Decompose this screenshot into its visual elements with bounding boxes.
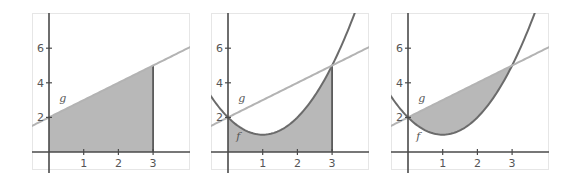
x-tick-label: 1 — [439, 157, 446, 170]
y-tick-label: 4 — [216, 77, 223, 90]
x-tick-label: 2 — [474, 157, 481, 170]
panel-area-between-f-g: 123246gf — [391, 13, 549, 170]
function-label-g: g — [418, 92, 425, 105]
x-tick-label: 3 — [329, 157, 336, 170]
chart-svg: 123246gf — [391, 13, 549, 170]
y-tick-label: 2 — [216, 111, 223, 124]
y-tick-label: 4 — [396, 77, 403, 90]
x-tick-label: 3 — [150, 157, 157, 170]
panel-area-under-f: 123246gf — [211, 13, 369, 170]
y-tick-label: 6 — [37, 42, 44, 55]
chart-svg: 123246g — [32, 13, 190, 170]
x-tick-label: 2 — [115, 157, 122, 170]
panel-area-under-g: 123246g — [32, 13, 190, 170]
y-tick-label: 2 — [396, 111, 403, 124]
y-tick-label: 6 — [216, 42, 223, 55]
chart-svg: 123246gf — [211, 13, 369, 170]
y-tick-label: 4 — [37, 77, 44, 90]
x-tick-label: 1 — [259, 157, 266, 170]
y-tick-label: 2 — [37, 111, 44, 124]
function-label-g: g — [238, 92, 245, 105]
y-tick-label: 6 — [396, 42, 403, 55]
x-tick-label: 3 — [509, 157, 516, 170]
x-tick-label: 1 — [80, 157, 87, 170]
function-label-g: g — [59, 92, 66, 105]
x-tick-label: 2 — [294, 157, 301, 170]
